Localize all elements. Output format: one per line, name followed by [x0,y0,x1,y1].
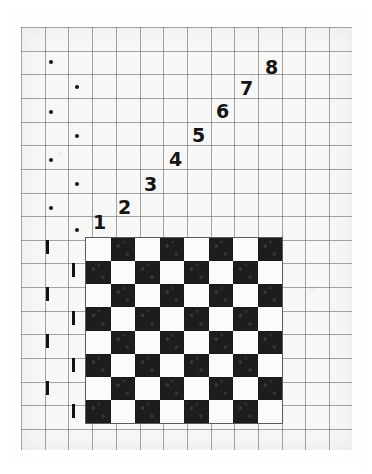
board-square [209,261,234,284]
board-square [86,400,111,423]
board-square [209,400,234,423]
margin-dot [49,206,53,210]
board-square [160,331,185,354]
board-square [184,400,209,423]
board-square [111,377,136,400]
margin-dot [75,134,79,138]
board-square [160,284,185,307]
board-square [184,284,209,307]
board-square [135,377,160,400]
margin-dot [49,60,53,64]
board-square [111,400,136,423]
board-square [135,400,160,423]
board-square [258,354,283,377]
margin-dot [75,182,79,186]
board-square [160,377,185,400]
step-number-3: 3 [144,175,157,194]
board-square [111,284,136,307]
board-square [209,238,234,261]
board-square [258,331,283,354]
board-square [233,284,258,307]
board-square [209,307,234,330]
board-square [86,284,111,307]
board-square [258,284,283,307]
board-square [111,331,136,354]
step-number-1: 1 [93,213,106,232]
margin-dot [49,110,53,114]
board-square [184,261,209,284]
board-square [111,354,136,377]
board-square [258,261,283,284]
board-square [160,354,185,377]
board-square [258,400,283,423]
board-square [258,377,283,400]
board-square [233,354,258,377]
board-square [258,307,283,330]
checkerboard-figure: 12345678 [0,0,372,474]
margin-tick [72,263,75,277]
board-square [135,284,160,307]
margin-tick [46,287,49,301]
board-square [184,331,209,354]
board-square [209,284,234,307]
board-square [111,238,136,261]
margin-dot [49,158,53,162]
board-square [160,261,185,284]
board-square [233,261,258,284]
checkerboard [85,237,283,424]
board-square [86,354,111,377]
board-square [233,307,258,330]
board-square [86,331,111,354]
board-square [209,354,234,377]
board-square [160,307,185,330]
step-number-6: 6 [216,102,229,121]
margin-tick [46,381,49,395]
board-square [135,331,160,354]
margin-tick [46,240,49,254]
board-square [86,377,111,400]
step-number-4: 4 [169,150,182,169]
board-square [233,400,258,423]
board-square [184,307,209,330]
board-square [184,354,209,377]
margin-tick [72,404,75,418]
margin-dot [75,228,79,232]
margin-tick [46,334,49,348]
board-square [233,377,258,400]
board-square [258,238,283,261]
margin-dot [75,85,79,89]
board-square [160,238,185,261]
board-square [135,307,160,330]
board-square [209,331,234,354]
board-square [86,238,111,261]
board-square [184,238,209,261]
board-square [160,400,185,423]
board-square [233,238,258,261]
board-square [135,261,160,284]
margin-tick [72,358,75,372]
step-number-8: 8 [265,58,278,77]
board-square [111,307,136,330]
board-square [233,331,258,354]
board-square [184,377,209,400]
board-square [135,354,160,377]
step-number-5: 5 [192,126,205,145]
margin-tick [72,311,75,325]
board-square [209,377,234,400]
step-number-7: 7 [240,79,253,98]
board-square [135,238,160,261]
step-number-2: 2 [118,198,131,217]
board-square [111,261,136,284]
board-square [86,261,111,284]
board-square [86,307,111,330]
